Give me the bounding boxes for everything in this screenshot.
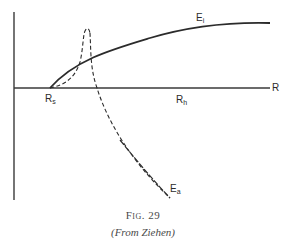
ea-curve-rising — [50, 29, 90, 88]
figure-source: (From Ziehen) — [0, 226, 286, 238]
figure: R Rs Rh Ei Ea Fig. 29 (From Ziehen) — [0, 0, 286, 251]
x-axis-label-text: R — [272, 82, 279, 93]
x-axis-label: R — [272, 83, 279, 93]
ea-curve-tail — [120, 140, 170, 198]
ea-label-main: E — [170, 183, 177, 194]
rh-label: Rh — [176, 95, 187, 108]
figure-number: Fig. 29 — [0, 209, 286, 221]
ei-label: Ei — [196, 13, 204, 26]
ei-label-sub: i — [203, 17, 205, 24]
ea-label: Ea — [170, 184, 181, 197]
rs-label: Rs — [45, 94, 56, 107]
rh-label-sub: h — [183, 99, 187, 106]
ei-label-main: E — [196, 12, 203, 23]
ea-label-sub: a — [177, 188, 181, 195]
rs-label-sub: s — [52, 98, 56, 105]
ei-curve — [50, 23, 270, 88]
ea-curve-falling — [90, 33, 170, 198]
